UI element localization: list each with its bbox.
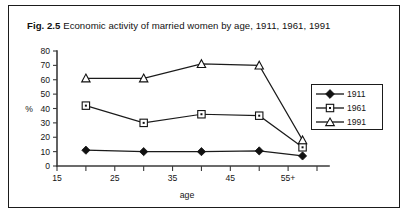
x-axis-ticks: 1525354555+ [52, 166, 317, 183]
data-point-1911-40[interactable] [197, 148, 205, 156]
figure-frame: Fig. 2.5 Economic activity of married wo… [8, 5, 400, 208]
data-point-1911-30[interactable] [140, 148, 148, 156]
x-axis-title: age [180, 190, 195, 200]
y-tick-label-30: 30 [40, 118, 50, 128]
legend-label-1991: 1991 [345, 116, 366, 128]
legend-marker-filled-diamond-icon [315, 88, 345, 100]
data-point-1911-20[interactable] [82, 146, 90, 154]
legend-marker-open-triangle-icon [315, 116, 345, 128]
x-tick-label-25: 25 [110, 173, 120, 183]
chart-series-group [82, 60, 307, 160]
y-tick-label-20: 20 [40, 132, 50, 142]
data-point-1991-57.5[interactable] [298, 136, 306, 144]
chart-axes: 01020304050607080 1525354555+ [40, 46, 329, 183]
series-line-1991 [86, 64, 303, 140]
y-axis-ticks: 01020304050607080 [40, 46, 57, 171]
y-tick-label-50: 50 [40, 89, 50, 99]
data-point-1961-57.5[interactable] [299, 144, 306, 151]
legend-label-1961: 1961 [345, 102, 366, 114]
x-tick-label-55+: 55+ [281, 173, 296, 183]
y-tick-label-40: 40 [40, 104, 50, 114]
data-point-1961-50[interactable] [256, 112, 263, 119]
legend-label-1911: 1911 [345, 88, 365, 100]
chart-legend: 1911 1961 1991 [311, 84, 383, 130]
y-tick-label-0: 0 [45, 161, 50, 171]
legend-marker-open-square-icon [315, 102, 345, 114]
x-tick-label-45: 45 [226, 173, 236, 183]
data-point-1911-57.5[interactable] [298, 152, 306, 160]
legend-item-1961[interactable]: 1961 [315, 101, 381, 114]
y-tick-label-70: 70 [40, 60, 50, 70]
legend-item-1991[interactable]: 1991 [315, 115, 381, 128]
series-line-1911 [86, 150, 303, 156]
y-tick-label-10: 10 [40, 147, 50, 157]
data-point-1961-30[interactable] [140, 119, 147, 126]
y-tick-label-80: 80 [40, 46, 50, 56]
y-axis-title: % [25, 104, 33, 114]
x-tick-label-15: 15 [52, 173, 62, 183]
legend-item-1911[interactable]: 1911 [315, 87, 381, 100]
data-point-1911-50[interactable] [255, 147, 263, 155]
data-point-1961-20[interactable] [82, 102, 89, 109]
data-point-1961-40[interactable] [198, 111, 205, 118]
series-line-1961 [86, 106, 303, 148]
x-tick-label-35: 35 [168, 173, 178, 183]
y-tick-label-60: 60 [40, 75, 50, 85]
